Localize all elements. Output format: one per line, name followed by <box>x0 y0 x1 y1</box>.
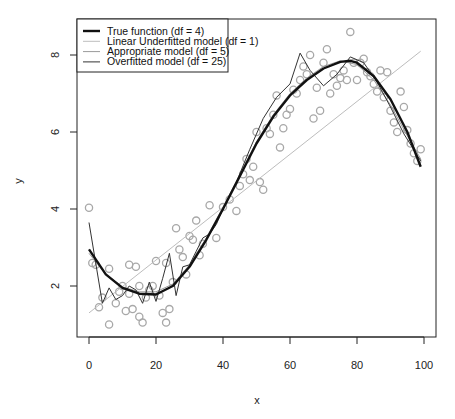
data-point <box>397 88 404 95</box>
data-point <box>136 282 143 289</box>
y-tick-label: 2 <box>49 283 61 289</box>
data-point <box>310 115 317 122</box>
data-point <box>163 319 170 326</box>
data-point <box>340 67 347 74</box>
y-axis-title: y <box>12 178 24 184</box>
data-point <box>206 202 213 209</box>
data-point <box>377 67 384 74</box>
data-point <box>176 246 183 253</box>
x-axis: 020406080100 <box>86 337 433 371</box>
data-point <box>280 125 287 132</box>
x-axis-title: x <box>254 394 260 406</box>
data-point <box>260 186 267 193</box>
data-point <box>387 107 394 114</box>
data-point <box>276 144 283 151</box>
data-point <box>400 103 407 110</box>
fitted-lines <box>89 51 421 313</box>
data-point <box>353 76 360 83</box>
data-point <box>266 130 273 137</box>
chart-canvas: 020406080100 2468 x y True function (df … <box>0 0 455 419</box>
data-point <box>317 107 324 114</box>
data-point <box>213 234 220 241</box>
data-point <box>106 321 113 328</box>
data-point <box>323 46 330 53</box>
x-tick-label: 100 <box>415 359 433 371</box>
data-point <box>173 225 180 232</box>
x-tick-label: 40 <box>217 359 229 371</box>
data-point <box>106 265 113 272</box>
data-point <box>179 254 186 261</box>
data-point <box>250 163 257 170</box>
x-tick-label: 60 <box>284 359 296 371</box>
series-line <box>89 51 421 313</box>
data-point <box>246 177 253 184</box>
y-tick-label: 8 <box>49 52 61 58</box>
x-tick-label: 20 <box>150 359 162 371</box>
data-point <box>347 28 354 35</box>
data-point <box>159 309 166 316</box>
data-point <box>313 84 320 91</box>
y-axis: 2468 <box>49 52 77 289</box>
data-point <box>193 217 200 224</box>
data-point <box>417 146 424 153</box>
y-tick-label: 4 <box>49 206 61 212</box>
x-tick-label: 80 <box>351 359 363 371</box>
data-point <box>333 82 340 89</box>
series-line <box>89 61 421 292</box>
data-point <box>343 76 350 83</box>
x-tick-label: 0 <box>86 359 92 371</box>
legend-item-label: Overfitted model (df = 25) <box>107 55 226 67</box>
data-point <box>233 207 240 214</box>
data-point <box>394 128 401 135</box>
data-point <box>384 69 391 76</box>
y-tick-label: 6 <box>49 129 61 135</box>
data-point <box>129 306 136 313</box>
data-point <box>327 90 334 97</box>
series-line <box>89 61 421 295</box>
data-point <box>139 319 146 326</box>
data-point <box>132 263 139 270</box>
data-point <box>286 105 293 112</box>
legend: True function (df = 4)Linear Underfitted… <box>77 19 258 72</box>
data-point <box>122 307 129 314</box>
scatter-points <box>85 28 424 328</box>
data-point <box>166 306 173 313</box>
data-point <box>112 300 119 307</box>
data-point <box>307 51 314 58</box>
data-point <box>85 204 92 211</box>
